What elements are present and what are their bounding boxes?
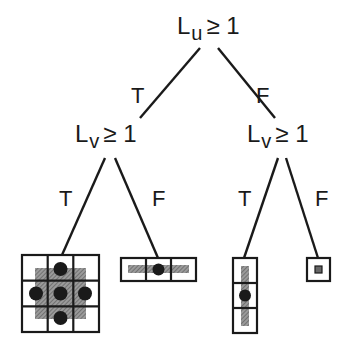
root-op: ≥ 1 bbox=[206, 12, 239, 39]
root-sub: u bbox=[191, 22, 202, 44]
decision-tree-diagram bbox=[0, 0, 353, 347]
edge-label-root-true: T bbox=[131, 85, 144, 107]
left-condition: Lv≥ 1 bbox=[75, 122, 137, 146]
right-op: ≥ 1 bbox=[275, 120, 308, 147]
edge-label-left-true: T bbox=[59, 188, 72, 210]
leaf-3x3-kernel bbox=[22, 255, 99, 332]
edge-root-left bbox=[140, 48, 200, 118]
root-condition: Lu≥ 1 bbox=[177, 14, 240, 38]
edge-label-right-false: F bbox=[315, 188, 328, 210]
edge-label-root-false: F bbox=[256, 85, 269, 107]
left-var: L bbox=[75, 120, 88, 147]
right-sub: v bbox=[261, 130, 271, 152]
tree-edges bbox=[62, 48, 318, 258]
edge-right-right bbox=[286, 158, 318, 258]
left-op: ≥ 1 bbox=[103, 120, 136, 147]
root-var: L bbox=[177, 12, 190, 39]
left-sub: v bbox=[89, 130, 99, 152]
right-var: L bbox=[247, 120, 260, 147]
right-condition: Lv≥ 1 bbox=[247, 122, 309, 146]
edge-label-left-false: F bbox=[152, 188, 165, 210]
leaf-vertical-kernel bbox=[233, 258, 257, 333]
edge-label-right-true: T bbox=[238, 188, 251, 210]
leaf-single-kernel bbox=[307, 258, 330, 281]
leaf-horizontal-kernel bbox=[121, 258, 196, 281]
